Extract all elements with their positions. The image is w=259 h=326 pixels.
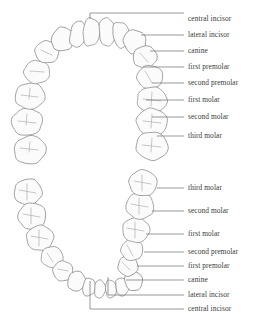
tooth xyxy=(82,17,100,47)
lower-arch-teeth xyxy=(11,168,158,299)
tooth xyxy=(125,192,155,220)
tooth-outline xyxy=(23,60,49,83)
label-lower-central-incisor: central incisor xyxy=(188,304,232,313)
tooth-outline xyxy=(136,64,164,89)
tooth-outline xyxy=(105,279,117,298)
label-lower-second-premolar: second premolar xyxy=(188,247,239,256)
label-upper-third-molar: third molar xyxy=(188,131,222,140)
label-upper-first-molar: first molar xyxy=(188,95,220,104)
tooth-outline xyxy=(94,279,106,298)
tooth xyxy=(23,60,49,83)
tooth-outline xyxy=(82,17,100,47)
label-upper-lateral-incisor: lateral incisor xyxy=(188,30,230,39)
tooth xyxy=(136,64,164,89)
tooth xyxy=(94,279,106,298)
label-lower-first-premolar: first premolar xyxy=(188,261,230,270)
tooth xyxy=(105,279,117,298)
label-upper-first-premolar: first premolar xyxy=(188,62,230,71)
tooth-outline xyxy=(125,192,155,220)
tooth-outline xyxy=(12,133,49,168)
label-lower-canine: canine xyxy=(188,275,208,284)
tooth-labels: central incisorlateral incisorcaninefirs… xyxy=(188,14,239,313)
label-upper-canine: canine xyxy=(188,46,208,55)
label-upper-second-molar: second molar xyxy=(188,112,229,121)
dental-arch-diagram: central incisorlateral incisorcaninefirs… xyxy=(0,0,259,326)
label-upper-central-incisor: central incisor xyxy=(188,14,232,23)
label-lower-second-molar: second molar xyxy=(188,206,229,215)
upper-arch-teeth xyxy=(10,17,171,167)
label-upper-second-premolar: second premolar xyxy=(188,78,239,87)
label-lower-third-molar: third molar xyxy=(188,183,222,192)
label-lower-lateral-incisor: lateral incisor xyxy=(188,290,230,299)
label-lower-first-molar: first molar xyxy=(188,229,220,238)
tooth xyxy=(12,133,49,168)
